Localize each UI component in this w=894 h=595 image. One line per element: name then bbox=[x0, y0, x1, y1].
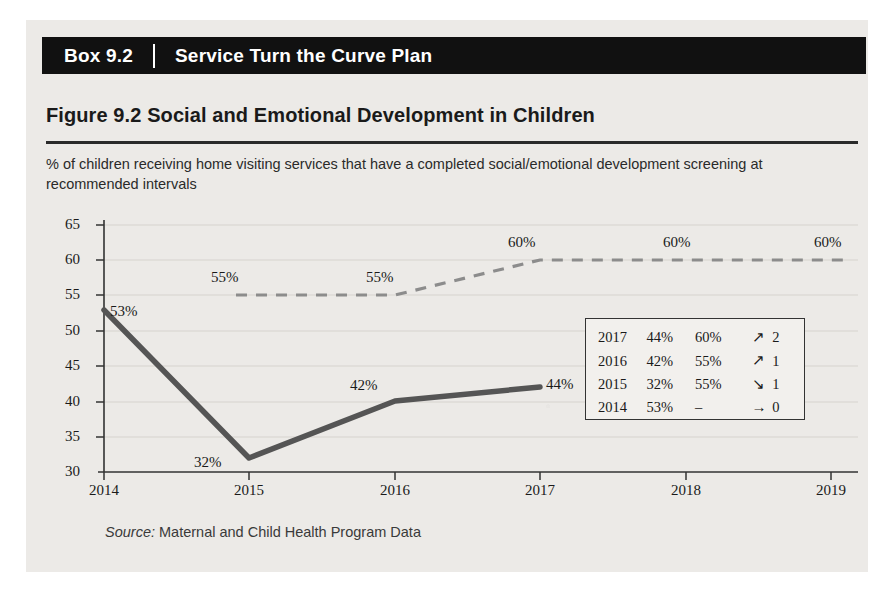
cell-actual: 44% bbox=[647, 326, 696, 349]
cell-year: 2016 bbox=[598, 349, 647, 372]
cell-score: 1 bbox=[772, 349, 792, 372]
y-axis-ticks bbox=[96, 225, 104, 437]
source-text: Maternal and Child Health Program Data bbox=[155, 524, 421, 540]
figure-title: Figure 9.2 Social and Emotional Developm… bbox=[46, 104, 595, 127]
cell-score: 1 bbox=[772, 373, 792, 396]
series-actual-line bbox=[104, 310, 540, 458]
trend-arrow-icon: ↘ bbox=[746, 373, 772, 396]
point-label-target-2019: 60% bbox=[814, 234, 842, 251]
cell-target: 55% bbox=[695, 373, 746, 396]
cell-score: 0 bbox=[772, 396, 792, 419]
box-title: Service Turn the Curve Plan bbox=[175, 45, 432, 67]
cell-actual: 32% bbox=[647, 373, 696, 396]
x-axis-ticks bbox=[104, 472, 831, 480]
cell-target: 55% bbox=[695, 349, 746, 372]
trend-arrow-icon: ↗ bbox=[746, 349, 772, 372]
summary-table: 2017 44% 60% ↗ 2 2016 42% 55% ↗ 1 2015 3… bbox=[598, 326, 792, 419]
point-label-actual-2015: 32% bbox=[194, 454, 222, 471]
trend-arrow-icon: → bbox=[746, 396, 772, 419]
cell-year: 2015 bbox=[598, 373, 647, 396]
point-label-actual-2014: 53% bbox=[110, 303, 138, 320]
point-label-target-2018: 60% bbox=[663, 234, 691, 251]
source-prefix: Source: bbox=[105, 524, 155, 540]
cell-target: – bbox=[695, 396, 746, 419]
turn-the-curve-table: 2017 44% 60% ↗ 2 2016 42% 55% ↗ 1 2015 3… bbox=[585, 318, 805, 420]
box-header-bar: Box 9.2 Service Turn the Curve Plan bbox=[42, 37, 866, 74]
point-label-actual-2016: 42% bbox=[350, 377, 378, 394]
cell-actual: 53% bbox=[647, 396, 696, 419]
figure-subtitle: % of children receiving home visiting se… bbox=[46, 154, 836, 194]
table-row: 2017 44% 60% ↗ 2 bbox=[598, 326, 792, 349]
cell-year: 2014 bbox=[598, 396, 647, 419]
header-divider bbox=[153, 44, 155, 68]
figure-page: Box 9.2 Service Turn the Curve Plan Figu… bbox=[0, 0, 894, 595]
point-label-target-2017: 60% bbox=[508, 234, 536, 251]
cell-score: 2 bbox=[772, 326, 792, 349]
point-label-target-2015: 55% bbox=[211, 269, 239, 286]
cell-target: 60% bbox=[695, 326, 746, 349]
title-rule bbox=[46, 141, 858, 144]
point-label-target-2016: 55% bbox=[366, 269, 394, 286]
table-row: 2015 32% 55% ↘ 1 bbox=[598, 373, 792, 396]
table-row: 2014 53% – → 0 bbox=[598, 396, 792, 419]
point-label-actual-2017: 44% bbox=[546, 376, 574, 393]
cell-year: 2017 bbox=[598, 326, 647, 349]
trend-arrow-icon: ↗ bbox=[746, 326, 772, 349]
source-note: Source: Maternal and Child Health Progra… bbox=[105, 524, 421, 540]
box-number-label: Box 9.2 bbox=[42, 45, 133, 67]
cell-actual: 42% bbox=[647, 349, 696, 372]
table-row: 2016 42% 55% ↗ 1 bbox=[598, 349, 792, 372]
series-target-line bbox=[236, 260, 846, 295]
